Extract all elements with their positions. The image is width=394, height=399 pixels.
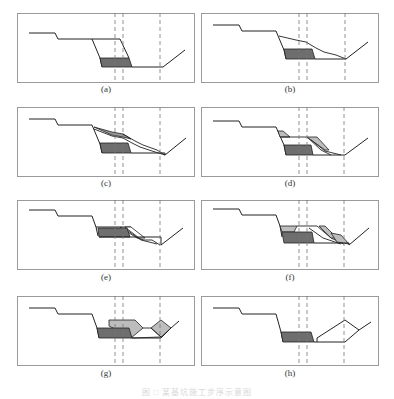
panel-e-label: (e) — [17, 272, 195, 282]
panel-g-label: (g) — [17, 368, 195, 378]
panel-e — [17, 200, 195, 270]
panel-f — [201, 200, 379, 270]
panel-d-label: (d) — [201, 178, 379, 188]
diagram-a — [17, 13, 195, 83]
diagram-g — [17, 296, 195, 366]
diagram-f — [201, 200, 379, 270]
panel-b-label: (b) — [201, 84, 379, 94]
panel-f-label: (f) — [201, 272, 379, 282]
diagram-b — [201, 13, 379, 83]
panel-a-label: (a) — [17, 84, 195, 94]
diagram-d — [201, 107, 379, 177]
panel-c-label: (c) — [17, 178, 195, 188]
panel-b — [201, 13, 379, 83]
panel-a — [17, 13, 195, 83]
diagram-h — [201, 296, 379, 366]
diagram-c — [17, 107, 195, 177]
figure-caption: 图 □ 某基坑施工步序示意图 — [0, 386, 394, 397]
panel-g — [17, 296, 195, 366]
diagram-e — [17, 200, 195, 270]
panel-h-label: (h) — [201, 368, 379, 378]
panel-c — [17, 107, 195, 177]
panel-d — [201, 107, 379, 177]
panel-h — [201, 296, 379, 366]
